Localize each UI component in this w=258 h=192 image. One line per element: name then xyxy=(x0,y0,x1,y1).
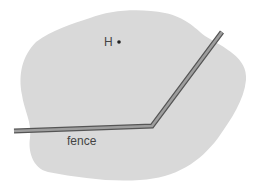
diagram-canvas xyxy=(0,0,258,192)
fence-label: fence xyxy=(67,135,96,147)
point-h-dot xyxy=(117,40,121,44)
field-region xyxy=(21,10,247,180)
point-h-label: H xyxy=(104,36,113,48)
